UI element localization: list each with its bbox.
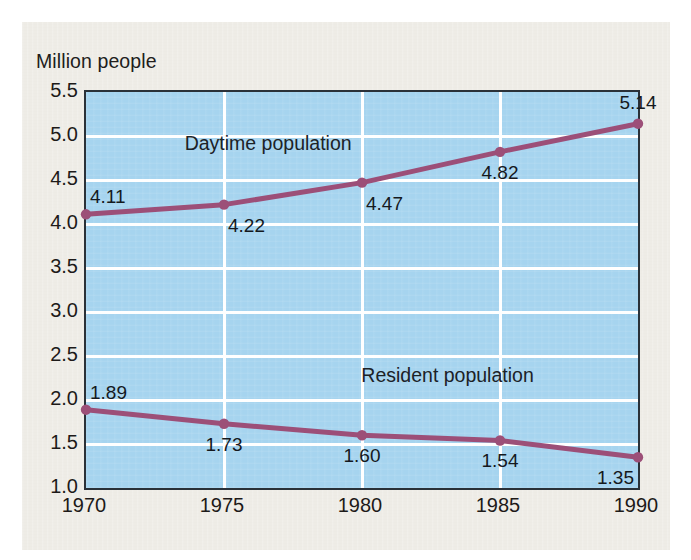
data-point-label: 1.54 xyxy=(482,450,519,472)
x-axis-tick-label: 1980 xyxy=(338,494,383,517)
data-point-label: 4.82 xyxy=(482,162,519,184)
y-axis-tick-label: 5.5 xyxy=(50,79,78,102)
y-axis-tick-label: 4.0 xyxy=(50,211,78,234)
y-axis-tick-labels: 5.55.04.54.03.53.02.52.01.51.0 xyxy=(24,90,78,486)
y-axis-tick-label: 3.5 xyxy=(50,255,78,278)
x-axis-tick-label: 1975 xyxy=(200,494,245,517)
data-point-marker xyxy=(495,147,505,157)
data-point-marker xyxy=(219,419,229,429)
data-point-marker xyxy=(357,430,367,440)
series-name-annotation: Daytime population xyxy=(185,132,352,155)
data-point-marker xyxy=(81,209,91,219)
y-axis-unit-caption: Million people xyxy=(36,50,157,73)
data-point-marker xyxy=(495,435,505,445)
x-axis-tick-label: 1985 xyxy=(476,494,521,517)
series-name-annotation: Resident population xyxy=(361,364,533,387)
data-point-marker xyxy=(219,199,229,209)
data-point-marker xyxy=(633,452,643,462)
data-point-marker xyxy=(357,177,367,187)
y-axis-tick-label: 4.5 xyxy=(50,167,78,190)
y-axis-tick-label: 3.0 xyxy=(50,299,78,322)
data-point-label: 1.89 xyxy=(90,382,127,404)
y-axis-tick-label: 2.5 xyxy=(50,343,78,366)
data-point-marker xyxy=(633,118,643,128)
series-line-0 xyxy=(86,124,638,215)
data-point-label: 5.14 xyxy=(620,92,657,114)
series-lines xyxy=(86,92,638,488)
data-point-label: 1.73 xyxy=(206,434,243,456)
x-axis-tick-label: 1990 xyxy=(614,494,659,517)
data-point-label: 1.60 xyxy=(344,445,381,467)
y-axis-tick-label: 2.0 xyxy=(50,387,78,410)
data-point-label: 4.11 xyxy=(90,186,126,208)
y-axis-tick-label: 5.0 xyxy=(50,123,78,146)
x-axis-tick-labels: 19701975198019851990 xyxy=(84,494,636,524)
data-point-marker xyxy=(81,404,91,414)
data-point-label: 4.47 xyxy=(366,193,403,215)
chart-page: Million people Daytime populationResiden… xyxy=(0,0,691,560)
y-axis-tick-label: 1.5 xyxy=(50,431,78,454)
plot-area: Daytime populationResident population 4.… xyxy=(84,90,640,490)
data-point-label: 1.35 xyxy=(597,467,634,489)
x-axis-tick-label: 1970 xyxy=(62,494,107,517)
data-point-label: 4.22 xyxy=(228,215,265,237)
